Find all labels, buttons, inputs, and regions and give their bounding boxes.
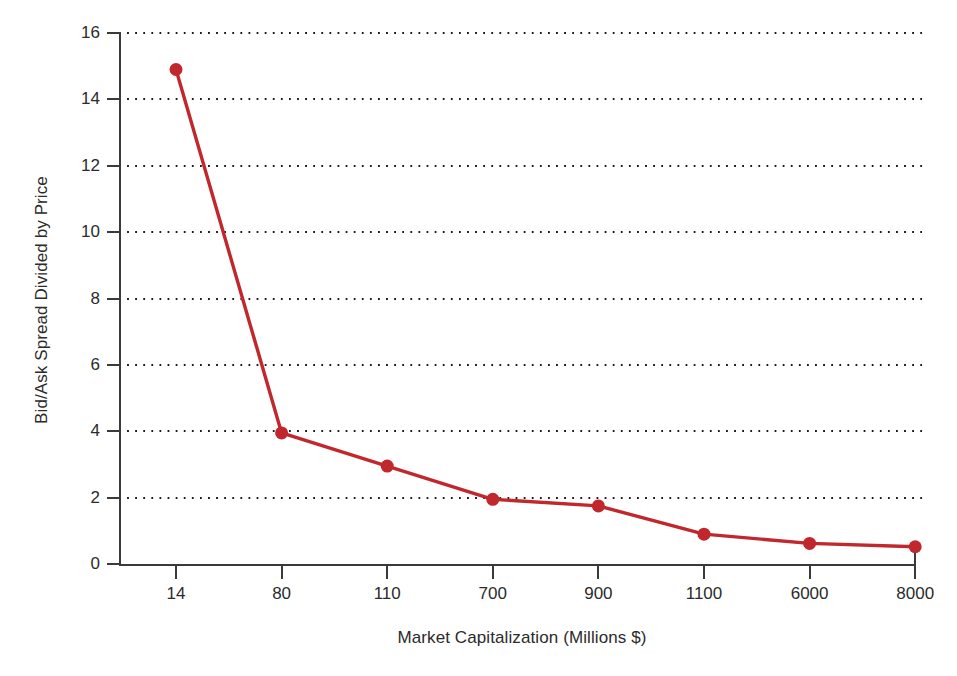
- data-point: [909, 540, 922, 553]
- data-point: [803, 537, 816, 550]
- data-point: [381, 460, 394, 473]
- x-axis-title: Market Capitalization (Millions $): [119, 628, 925, 648]
- chart-figure: Bid/Ask Spread Divided by Price 02468101…: [0, 0, 957, 676]
- data-point: [170, 63, 183, 76]
- series-line: [176, 70, 915, 547]
- data-point: [592, 499, 605, 512]
- data-point: [698, 528, 711, 541]
- series-markers: [170, 63, 922, 553]
- data-point: [486, 493, 499, 506]
- data-series: [0, 0, 957, 676]
- data-point: [275, 426, 288, 439]
